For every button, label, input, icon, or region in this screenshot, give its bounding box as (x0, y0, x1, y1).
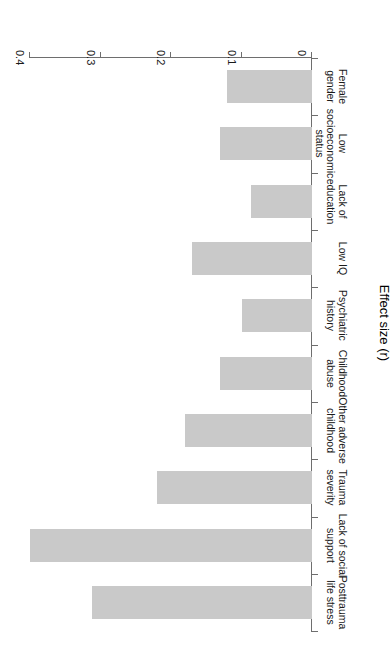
value-tick-3 (100, 52, 101, 58)
bar-lack-of-social-support (30, 529, 312, 562)
value-tick-label-0: 0 (296, 50, 308, 56)
bar-low-socioeconomic-status (220, 127, 312, 160)
bar-low-iq (192, 242, 312, 275)
bar-chart-figure: 0 0.1 0.2 0.3 0.4 Female gender Low soci… (0, 0, 392, 646)
plot-area: 0 0.1 0.2 0.3 0.4 Female gender Low soci… (30, 0, 312, 646)
value-tick-2 (170, 52, 171, 58)
value-tick-label-2: 0.2 (155, 50, 167, 65)
value-tick-label-4: 0.4 (14, 50, 26, 65)
bar-psychiatric-history (242, 299, 312, 332)
bar-other-adverse-childhood (185, 414, 312, 447)
value-axis-line (30, 57, 312, 58)
bar-posttrauma-life-stress (92, 586, 312, 619)
value-tick-4 (29, 52, 30, 58)
bar-lack-of-education (251, 185, 312, 218)
value-axis-title: Effect size (r) (377, 285, 392, 361)
category-label-posttrauma-life-stress: Posttrauma life stress (315, 566, 348, 640)
value-tick-1 (241, 52, 242, 58)
value-tick-label-3: 0.3 (85, 50, 97, 65)
bar-female-gender (227, 70, 312, 103)
value-tick-label-1: 0.1 (226, 50, 238, 65)
bar-childhood-abuse (220, 357, 312, 390)
bar-trauma-severity (157, 471, 312, 504)
